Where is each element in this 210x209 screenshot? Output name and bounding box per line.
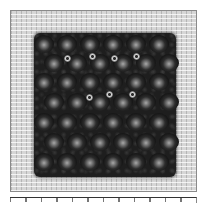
stitch-bump	[67, 133, 87, 151]
stitch-bump	[57, 35, 77, 53]
stitch-bump	[159, 93, 179, 111]
stitch-bump	[90, 133, 110, 151]
stitch-bump	[149, 153, 169, 171]
stitch-bump	[80, 73, 100, 91]
stitch-bump	[103, 113, 123, 131]
eyelet-stitch	[64, 55, 71, 62]
stitch-bump	[67, 93, 87, 111]
stitch-sample-photo	[10, 10, 197, 192]
stitch-bump	[44, 133, 64, 151]
stitch-bump	[149, 35, 169, 53]
stitch-bump	[44, 93, 64, 111]
stitch-bump	[34, 153, 54, 171]
stitch-bump	[159, 54, 179, 72]
stitch-bump	[44, 54, 64, 72]
stitch-bump	[103, 153, 123, 171]
stitched-area	[34, 33, 176, 177]
stitch-bump	[80, 113, 100, 131]
eyelet-stitch	[89, 53, 96, 60]
stitch-bump	[57, 153, 77, 171]
eyelet-stitch	[86, 94, 93, 101]
stitch-bump	[103, 73, 123, 91]
eyelet-stitch	[106, 91, 113, 98]
stitch-bump	[57, 73, 77, 91]
scale-ruler	[10, 197, 197, 203]
stitch-bump	[34, 35, 54, 53]
stitch-bump	[149, 113, 169, 131]
stitch-bump	[126, 153, 146, 171]
stitch-bump	[149, 73, 169, 91]
stitch-bump	[126, 113, 146, 131]
stitch-bump	[113, 133, 133, 151]
stitch-bump	[80, 35, 100, 53]
stitch-bump	[80, 153, 100, 171]
stitch-bump	[126, 73, 146, 91]
stitch-bump	[159, 133, 179, 151]
stitch-bump	[126, 35, 146, 53]
stitch-bump	[57, 113, 77, 131]
stitch-bump	[136, 93, 156, 111]
stitch-bump	[34, 73, 54, 91]
eyelet-stitch	[129, 91, 136, 98]
eyelet-stitch	[111, 55, 118, 62]
stitch-bump	[103, 35, 123, 53]
stitch-bump	[34, 113, 54, 131]
eyelet-stitch	[133, 53, 140, 60]
stitch-bump	[136, 133, 156, 151]
